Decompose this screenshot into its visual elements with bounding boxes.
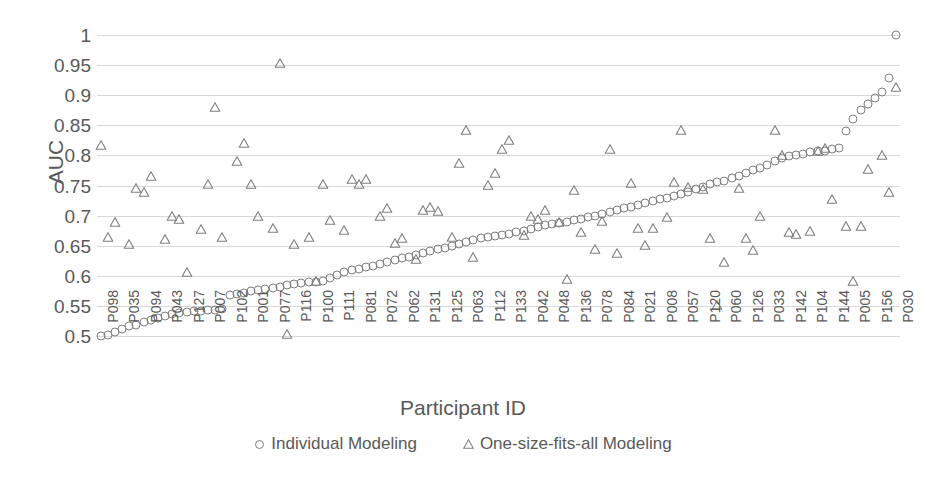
- data-point-one-size-fits-all-modeling: [246, 179, 257, 189]
- data-point-individual-modeling: [863, 100, 872, 109]
- data-point-one-size-fits-all-modeling: [597, 216, 608, 226]
- data-point-one-size-fits-all-modeling: [705, 233, 716, 243]
- x-tick-label: P077: [278, 290, 292, 340]
- data-point-individual-modeling: [555, 218, 564, 227]
- legend-entry[interactable]: Individual Modeling: [254, 434, 417, 454]
- data-point-individual-modeling: [541, 221, 550, 230]
- data-point-individual-modeling: [483, 233, 492, 242]
- data-point-individual-modeling: [490, 232, 499, 241]
- legend-entry[interactable]: One-size-fits-all Modeling: [463, 434, 672, 454]
- data-point-individual-modeling: [727, 174, 736, 183]
- data-point-one-size-fits-all-modeling: [418, 205, 429, 215]
- data-point-individual-modeling: [720, 176, 729, 185]
- data-point-individual-modeling: [741, 169, 750, 178]
- x-tick-label: P001: [256, 290, 270, 340]
- data-point-one-size-fits-all-modeling: [95, 140, 106, 150]
- data-point-one-size-fits-all-modeling: [497, 144, 508, 154]
- data-point-one-size-fits-all-modeling: [109, 217, 120, 227]
- data-point-individual-modeling: [369, 261, 378, 270]
- y-tick-label: 0.65: [54, 236, 91, 255]
- data-point-individual-modeling: [318, 276, 327, 285]
- data-point-individual-modeling: [799, 149, 808, 158]
- x-tick-label: P035: [127, 290, 141, 340]
- data-point-one-size-fits-all-modeling: [841, 221, 852, 231]
- data-point-individual-modeling: [562, 217, 571, 226]
- x-tick-label: P126: [751, 290, 765, 340]
- gridline: [97, 155, 900, 156]
- data-point-one-size-fits-all-modeling: [138, 187, 149, 197]
- x-tick-label: P043: [170, 290, 184, 340]
- data-point-individual-modeling: [297, 279, 306, 288]
- data-point-individual-modeling: [770, 157, 779, 166]
- x-tick-label: P098: [106, 290, 120, 340]
- x-tick-label: P084: [622, 290, 636, 340]
- data-point-individual-modeling: [476, 234, 485, 243]
- data-point-individual-modeling: [856, 106, 865, 115]
- gridline: [97, 216, 900, 217]
- data-point-individual-modeling: [469, 236, 478, 245]
- data-point-one-size-fits-all-modeling: [195, 224, 206, 234]
- legend-label: One-size-fits-all Modeling: [480, 434, 672, 454]
- x-tick-label: P005: [858, 290, 872, 340]
- data-point-individual-modeling: [677, 189, 686, 198]
- data-point-one-size-fits-all-modeling: [396, 233, 407, 243]
- data-point-one-size-fits-all-modeling: [274, 58, 285, 68]
- auc-scatter-chart: AUC 10.950.90.850.80.750.70.650.60.550.5…: [0, 0, 926, 484]
- chart-legend: Individual ModelingOne-size-fits-all Mod…: [0, 434, 926, 454]
- x-tick-label: P156: [880, 290, 894, 340]
- data-point-one-size-fits-all-modeling: [848, 276, 859, 286]
- data-point-individual-modeling: [419, 248, 428, 257]
- data-point-individual-modeling: [842, 127, 851, 136]
- data-point-individual-modeling: [505, 229, 514, 238]
- x-tick-label: P081: [364, 290, 378, 340]
- data-point-individual-modeling: [698, 182, 707, 191]
- data-point-individual-modeling: [813, 147, 822, 156]
- x-tick-label: P112: [493, 290, 507, 340]
- x-tick-label: P133: [514, 290, 528, 340]
- data-point-one-size-fits-all-modeling: [339, 225, 350, 235]
- data-point-individual-modeling: [548, 220, 557, 229]
- data-point-individual-modeling: [612, 206, 621, 215]
- data-point-individual-modeling: [311, 277, 320, 286]
- x-tick-label: P062: [407, 290, 421, 340]
- x-tick-label: P033: [772, 290, 786, 340]
- x-tick-label: P120: [708, 290, 722, 340]
- data-point-one-size-fits-all-modeling: [719, 257, 730, 267]
- y-tick-label: 0.7: [65, 206, 91, 225]
- data-point-individual-modeling: [304, 278, 313, 287]
- data-point-individual-modeling: [619, 204, 628, 213]
- data-point-individual-modeling: [512, 228, 521, 237]
- gridline: [97, 35, 900, 36]
- data-point-one-size-fits-all-modeling: [891, 82, 902, 92]
- data-point-one-size-fits-all-modeling: [791, 229, 802, 239]
- gridline: [97, 125, 900, 126]
- data-point-individual-modeling: [827, 145, 836, 154]
- data-point-individual-modeling: [734, 171, 743, 180]
- y-tick-label: 0.8: [65, 146, 91, 165]
- data-point-one-size-fits-all-modeling: [805, 226, 816, 236]
- data-point-one-size-fits-all-modeling: [554, 217, 565, 227]
- data-point-one-size-fits-all-modeling: [633, 223, 644, 233]
- data-point-individual-modeling: [440, 243, 449, 252]
- data-point-one-size-fits-all-modeling: [217, 232, 228, 242]
- data-point-individual-modeling: [835, 144, 844, 153]
- data-point-individual-modeling: [426, 247, 435, 256]
- y-tick-label: 0.9: [65, 86, 91, 105]
- data-point-individual-modeling: [569, 216, 578, 225]
- y-tick-label: 0.95: [54, 56, 91, 75]
- data-point-one-size-fits-all-modeling: [210, 102, 221, 112]
- legend-triangle-icon: [463, 438, 475, 450]
- gridline: [97, 65, 900, 66]
- data-point-one-size-fits-all-modeling: [411, 254, 422, 264]
- x-tick-label: P116: [299, 290, 313, 340]
- data-point-individual-modeling: [662, 193, 671, 202]
- data-point-individual-modeling: [634, 200, 643, 209]
- data-point-individual-modeling: [361, 263, 370, 272]
- data-point-one-size-fits-all-modeling: [353, 179, 364, 189]
- data-point-individual-modeling: [519, 226, 528, 235]
- data-point-one-size-fits-all-modeling: [518, 230, 529, 240]
- data-point-individual-modeling: [684, 187, 693, 196]
- data-point-one-size-fits-all-modeling: [145, 171, 156, 181]
- data-point-one-size-fits-all-modeling: [102, 232, 113, 242]
- data-point-one-size-fits-all-modeling: [489, 168, 500, 178]
